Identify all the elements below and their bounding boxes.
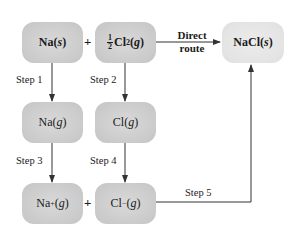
step1-label: Step 1 [16, 74, 43, 85]
plus-sign: + [84, 34, 91, 50]
direct-route-label: Direct route [162, 29, 222, 55]
state-label: g [57, 115, 63, 130]
step4-label: Step 4 [90, 155, 117, 166]
step5-arrow [156, 65, 251, 202]
step2-label: Step 2 [90, 74, 117, 85]
node-chlorine-atom-gas: Cl(g) [95, 102, 156, 143]
state-label: s [264, 35, 269, 50]
species-label: Na [36, 196, 50, 211]
step5-label: Step 5 [185, 187, 212, 198]
node-chloride-ion-gas: Cl−(g) [95, 183, 156, 224]
state-label: g [134, 35, 140, 50]
plus-sign: + [84, 195, 91, 211]
species-label: Cl [111, 196, 122, 211]
state-label: g [59, 196, 65, 211]
fraction-one-half: 1 2 [107, 34, 113, 51]
step3-label: Step 3 [16, 155, 43, 166]
species-label: Cl [114, 35, 126, 50]
species-label: Cl [113, 115, 124, 130]
node-na-solid: Na(s) [22, 22, 83, 63]
state-label: g [130, 196, 136, 211]
species-label: Na [39, 115, 53, 130]
node-sodium-gas: Na(g) [22, 102, 83, 143]
node-sodium-chloride-solid: NaCl(s) [222, 22, 284, 63]
node-half-chlorine-gas: 1 2 Cl2(g) [95, 22, 156, 63]
state-label: s [58, 35, 63, 50]
species-label: Na [39, 35, 54, 50]
node-sodium-ion-gas: Na+(g) [22, 183, 83, 224]
state-label: g [128, 115, 134, 130]
species-label: NaCl [233, 35, 260, 50]
